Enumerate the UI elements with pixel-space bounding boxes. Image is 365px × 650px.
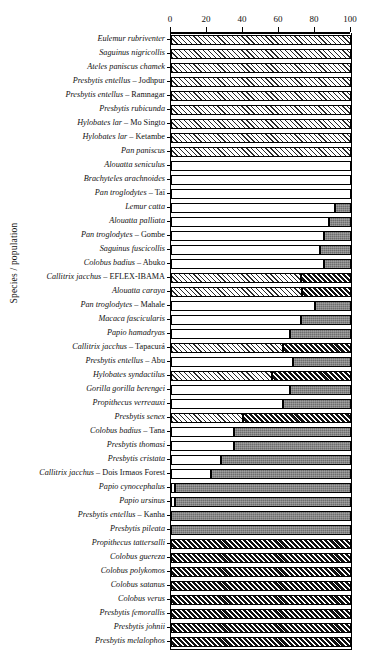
bar-segment-1 xyxy=(171,49,351,59)
x-tick-label-100: 100 xyxy=(343,14,357,24)
bar-segment-2 xyxy=(171,595,351,605)
x-tick-60 xyxy=(278,27,279,32)
bar-row: Papio ursinus xyxy=(171,495,351,509)
bar-segment-1 xyxy=(171,441,234,451)
bar-segment-2 xyxy=(293,357,351,367)
bar-row: Presbytis entellus – Abu xyxy=(171,355,351,369)
y-tick-label: Saguinus nigricollis xyxy=(99,48,165,58)
y-tick-label: Callitrix jacchus – EFLEX-IBAMA xyxy=(47,272,166,282)
bar-track xyxy=(171,413,351,423)
bar-segment-1 xyxy=(171,203,335,213)
bar-row: Pan troglodytes – Gombe xyxy=(171,229,351,243)
bar-segment-1 xyxy=(171,287,302,297)
x-tick-label-60: 60 xyxy=(274,14,283,24)
bar-track xyxy=(171,539,351,549)
bar-segment-2 xyxy=(272,371,351,381)
bar-segment-2 xyxy=(324,231,351,241)
x-tick-20 xyxy=(206,27,207,32)
y-tick-label: Colobus guereza xyxy=(110,552,165,562)
bar-track xyxy=(171,623,351,633)
bar-row: Callitrix jacchus – EFLEX-IBAMA xyxy=(171,271,351,285)
bar-track xyxy=(171,455,351,465)
bar-segment-1 xyxy=(171,399,283,409)
bar-segment-1 xyxy=(171,217,329,227)
y-tick-label: Colobus satanus xyxy=(111,580,165,590)
bar-track xyxy=(171,259,351,269)
bar-row: Presbytis rubicunda xyxy=(171,103,351,117)
bar-segment-1 xyxy=(171,273,301,283)
bar-track xyxy=(171,357,351,367)
bar-segment-1 xyxy=(171,427,234,437)
bar-track xyxy=(171,287,351,297)
bar-row: Presbytis pileata xyxy=(171,523,351,537)
y-tick-label: Eulemur rubriventer xyxy=(97,34,165,44)
bar-segment-2 xyxy=(324,259,351,269)
bar-row: Papio hamadryas xyxy=(171,327,351,341)
bar-segment-1 xyxy=(171,385,290,395)
y-tick-label: Presbytis entellus – Ramnagar xyxy=(65,90,165,100)
bar-segment-1 xyxy=(171,119,351,129)
x-tick-40 xyxy=(242,27,243,32)
bar-segment-2 xyxy=(301,273,351,283)
y-tick-label: Colobus polykomos xyxy=(101,566,165,576)
bar-track xyxy=(171,315,351,325)
y-tick-label: Saguinus fuscicollis xyxy=(100,244,165,254)
bar-track xyxy=(171,609,351,619)
bar-row: Hylobates syndactilus xyxy=(171,369,351,383)
bar-row: Alouatta palliata xyxy=(171,215,351,229)
bar-segment-2 xyxy=(283,399,351,409)
bar-segment-2 xyxy=(211,469,351,479)
bar-row: Papio cynocephalus xyxy=(171,481,351,495)
bar-track xyxy=(171,245,351,255)
bar-segment-2 xyxy=(171,553,351,563)
bar-segment-2 xyxy=(320,245,351,255)
bar-segment-1 xyxy=(171,245,320,255)
bar-segment-1 xyxy=(171,77,351,87)
x-tick-0 xyxy=(170,27,171,32)
bar-row: Alouatta seniculus xyxy=(171,159,351,173)
bar-segment-1 xyxy=(171,371,272,381)
bar-track xyxy=(171,567,351,577)
y-tick-label: Hylobates lar – Ketambe xyxy=(82,132,165,142)
y-tick-label: Presbytis senex xyxy=(115,412,165,422)
bar-segment-2 xyxy=(302,287,351,297)
bar-row: Propithecus verreauxi xyxy=(171,397,351,411)
bar-track xyxy=(171,329,351,339)
bar-segment-2 xyxy=(315,301,351,311)
bar-row: Colobus polykomos xyxy=(171,565,351,579)
bar-row: Pan paniscus xyxy=(171,145,351,159)
y-tick-label: Colobus badius – Tana xyxy=(90,426,165,436)
bar-row: Colobus satanus xyxy=(171,579,351,593)
bar-row: Presbytis senex xyxy=(171,411,351,425)
bar-row: Propithecus tattersalli xyxy=(171,537,351,551)
bar-segment-1 xyxy=(171,231,324,241)
x-tick-label-0: 0 xyxy=(168,14,173,24)
bar-track xyxy=(171,343,351,353)
bar-row: Presbytis entellus – Jodhpur xyxy=(171,75,351,89)
y-tick-label: Propithecus tattersalli xyxy=(92,538,165,548)
bar-track xyxy=(171,189,351,199)
y-tick-label: Gorilla gorilla berengei xyxy=(86,384,165,394)
bar-track xyxy=(171,175,351,185)
bar-track xyxy=(171,595,351,605)
bar-segment-2 xyxy=(175,483,351,493)
bar-track xyxy=(171,525,351,535)
y-tick-label: Presbytis johnii xyxy=(114,622,165,632)
bar-track xyxy=(171,91,351,101)
y-tick-label: Papio hamadryas xyxy=(107,328,165,338)
y-tick-label: Presbytis thomasi xyxy=(107,440,165,450)
y-tick-label: Papio ursinus xyxy=(119,496,165,506)
y-tick-label: Callitrix jacchus – Dois Irmaos Forest xyxy=(39,468,165,478)
y-tick-label: Presbytis rubicunda xyxy=(99,104,165,114)
bar-segment-1 xyxy=(171,133,351,143)
bar-track xyxy=(171,133,351,143)
bar-row: Callitrix jacchus – Tapacurá xyxy=(171,341,351,355)
bar-track xyxy=(171,511,351,521)
y-tick-label: Pan troglodytes – Taï xyxy=(95,188,165,198)
y-tick-label: Colobus badius – Abuko xyxy=(84,258,165,268)
bar-row: Presbytis femorallis xyxy=(171,607,351,621)
x-tick-80 xyxy=(314,27,315,32)
bar-track xyxy=(171,553,351,563)
bar-segment-1 xyxy=(171,175,351,185)
